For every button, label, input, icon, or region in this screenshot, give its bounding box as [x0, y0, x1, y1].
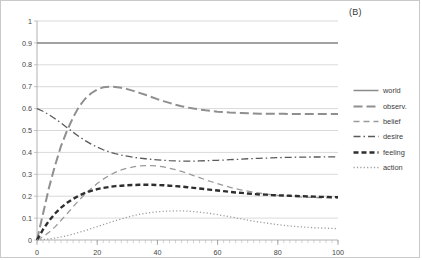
legend-item-belief[interactable]: belief — [353, 114, 419, 129]
legend-item-desire[interactable]: desire — [353, 129, 419, 144]
legend-label-world: world — [383, 86, 401, 95]
y-axis-tick-label: 0.9 — [22, 39, 32, 48]
y-axis-tick-label: 0.7 — [22, 82, 32, 91]
x-axis-tick-label: 100 — [332, 248, 344, 257]
x-axis-tick-label: 40 — [153, 248, 161, 257]
legend-label-belief: belief — [383, 117, 401, 126]
y-axis-tick-label: 0.8 — [22, 60, 32, 69]
series-line-feeling — [37, 185, 338, 240]
legend-swatch-action — [353, 163, 379, 172]
chart-frame: (B) 10.90.80.70.60.50.40.30.20.100204060… — [0, 0, 420, 258]
legend-label-desire: desire — [383, 132, 403, 141]
y-axis-tick-label: 0 — [28, 236, 32, 245]
series-line-observ — [37, 87, 338, 240]
legend-swatch-belief — [353, 117, 379, 126]
legend-label-action: action — [383, 163, 403, 172]
legend-item-action[interactable]: action — [353, 160, 419, 175]
x-axis-tick-label: 0 — [35, 248, 39, 257]
x-axis-tick-label: 20 — [93, 248, 101, 257]
y-axis-tick-label: 0.6 — [22, 104, 32, 113]
legend-label-observ: observ. — [383, 102, 407, 111]
legend-swatch-world — [353, 86, 379, 95]
legend-item-world[interactable]: world — [353, 83, 419, 98]
y-axis-tick-label: 0.4 — [22, 148, 32, 157]
series-line-belief — [37, 166, 338, 240]
legend-swatch-desire — [353, 132, 379, 141]
legend-swatch-feeling — [353, 148, 379, 157]
legend-item-observ[interactable]: observ. — [353, 98, 419, 113]
x-axis-tick-label: 60 — [214, 248, 222, 257]
chart-legend: worldobserv.beliefdesirefeelingaction — [353, 83, 419, 175]
legend-label-feeling: feeling — [383, 148, 405, 157]
series-line-desire — [37, 109, 338, 162]
y-axis-tick-label: 0.5 — [22, 126, 32, 135]
y-axis-tick-label: 0.1 — [22, 214, 32, 223]
legend-swatch-observ — [353, 102, 379, 111]
y-axis-tick-label: 1 — [28, 17, 32, 26]
legend-item-feeling[interactable]: feeling — [353, 145, 419, 160]
y-axis-tick-label: 0.3 — [22, 170, 32, 179]
y-axis-tick-label: 0.2 — [22, 192, 32, 201]
x-axis-tick-label: 80 — [274, 248, 282, 257]
series-line-action — [37, 211, 338, 240]
